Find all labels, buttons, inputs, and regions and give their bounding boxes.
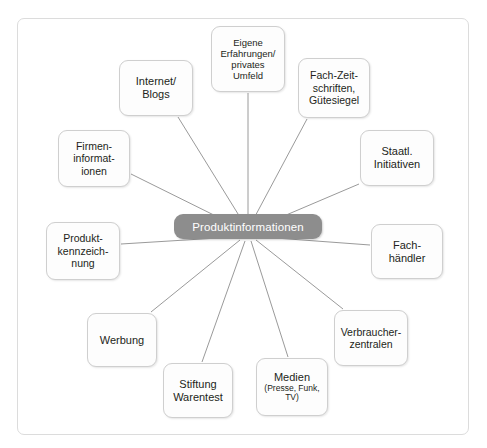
node-medien[interactable]: Medien (Presse, Funk, TV) xyxy=(256,358,328,416)
node-werbung[interactable]: Werbung xyxy=(87,313,157,367)
connector-fach-zeitschriften xyxy=(252,119,307,222)
node-fach-zeitschriften[interactable]: Fach-Zeit- schriften, Gütesiegel xyxy=(298,58,370,118)
connector-stiftung-warentest xyxy=(202,241,245,362)
node-label: Werbung xyxy=(100,334,144,347)
node-label: Firmen- informat- ionen xyxy=(73,140,114,177)
node-eigene-erfahrungen[interactable]: Eigene Erfahrungen/ privates Umfeld xyxy=(211,26,285,92)
connector-werbung xyxy=(151,240,240,312)
node-label: Staatl. Initiativen xyxy=(374,145,420,171)
node-staatl-initiativen[interactable]: Staatl. Initiativen xyxy=(360,130,434,186)
node-produktkennzeichnung[interactable]: Produkt- kennzeich- nung xyxy=(46,222,120,280)
node-fachhaendler[interactable]: Fach- händler xyxy=(371,224,443,279)
diagram-canvas: Produktinformationen Eigene Erfahrungen/… xyxy=(0,0,487,448)
node-internet-blogs[interactable]: Internet/ Blogs xyxy=(119,60,193,116)
node-label: Produkt- kennzeich- nung xyxy=(58,232,109,269)
node-label: Fach-Zeit- schriften, Gütesiegel xyxy=(309,69,359,106)
node-label: Stiftung Warentest xyxy=(173,378,223,404)
node-verbraucherzentralen[interactable]: Verbraucher- zentralen xyxy=(334,310,408,366)
node-label: Medien xyxy=(274,371,310,384)
node-label: Eigene Erfahrungen/ privates Umfeld xyxy=(221,37,276,82)
connector-internet-blogs xyxy=(178,117,243,222)
node-sublabel: (Presse, Funk, TV) xyxy=(264,384,319,404)
node-stiftung-warentest[interactable]: Stiftung Warentest xyxy=(163,363,233,418)
connector-medien xyxy=(251,241,288,357)
node-label: Verbraucher- zentralen xyxy=(341,326,402,351)
center-node-label: Produktinformationen xyxy=(192,221,303,233)
node-label: Fach- händler xyxy=(389,239,426,265)
node-label: Internet/ Blogs xyxy=(136,75,176,101)
center-node[interactable]: Produktinformationen xyxy=(174,214,322,239)
node-firmeninformationen[interactable]: Firmen- informat- ionen xyxy=(58,130,130,187)
